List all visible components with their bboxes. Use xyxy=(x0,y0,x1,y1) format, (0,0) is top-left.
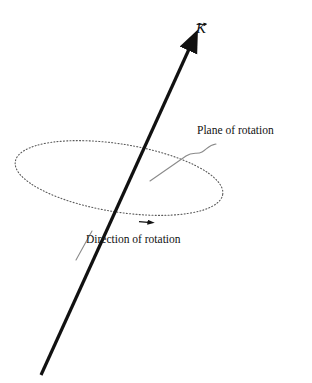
vector-arrow-accent-icon xyxy=(196,15,207,21)
direction-of-rotation-label: Direction of rotation xyxy=(86,234,181,246)
plane-of-rotation-leader-line xyxy=(150,144,216,181)
direction-of-rotation-arrow-icon xyxy=(139,222,148,223)
vector-k-label: K xyxy=(196,16,206,36)
vector-k-axis-line xyxy=(41,47,190,375)
diagram-canvas xyxy=(0,0,312,383)
plane-of-rotation-ellipse xyxy=(10,128,228,228)
rotation-diagram: K Plane of rotation Direction of rotatio… xyxy=(0,0,312,383)
plane-of-rotation-label: Plane of rotation xyxy=(197,125,274,137)
